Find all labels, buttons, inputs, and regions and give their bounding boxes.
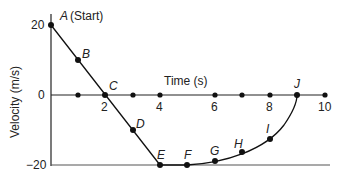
y-tick-minus-20: −20 [26, 158, 47, 172]
point-j [294, 92, 300, 98]
point-e [157, 162, 163, 168]
label-b: B [82, 47, 90, 61]
label-start: (Start) [70, 9, 103, 23]
x-tick-8: 8 [266, 100, 273, 114]
label-d: D [136, 117, 145, 131]
x-tick-2: 2 [101, 100, 108, 114]
y-axis-label: Velocity (m/s) [8, 66, 22, 138]
y-tick-20: 20 [31, 18, 45, 32]
y-tick-0: 0 [38, 88, 45, 102]
label-g: G [210, 144, 219, 158]
velocity-time-diagram: A (Start) B C D E F G H I J Time (s) Vel… [0, 0, 345, 177]
x-tick-10: 10 [318, 100, 332, 114]
point-f [184, 162, 190, 168]
point-i [267, 136, 273, 142]
label-a: A [59, 9, 68, 23]
x-tick-4: 4 [156, 100, 163, 114]
label-j: J [293, 77, 301, 91]
point-g [212, 158, 218, 164]
point-c [102, 92, 108, 98]
label-e: E [157, 148, 166, 162]
point-a [48, 22, 54, 28]
label-h: H [234, 137, 243, 151]
label-f: F [184, 148, 192, 162]
x-axis-label: Time (s) [164, 74, 208, 88]
label-c: C [109, 79, 118, 93]
x-tick-6: 6 [211, 100, 218, 114]
point-b [75, 57, 81, 63]
label-i: I [266, 122, 270, 136]
